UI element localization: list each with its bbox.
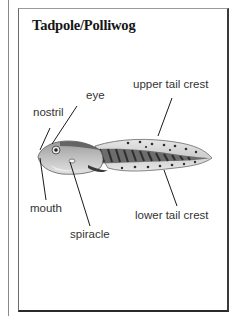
label-mouth: mouth [30, 203, 62, 215]
label-nostril: nostril [33, 107, 64, 119]
tadpole-illustration [0, 0, 236, 316]
label-spiracle: spiracle [70, 229, 110, 241]
eye-icon [52, 146, 60, 154]
label-eye: eye [86, 90, 105, 102]
label-lower-tail-crest: lower tail crest [135, 210, 209, 222]
lower-tail-crest-leader [164, 170, 177, 206]
upper-tail-crest-leader [158, 98, 172, 136]
label-upper-tail-crest: upper tail crest [133, 79, 208, 91]
